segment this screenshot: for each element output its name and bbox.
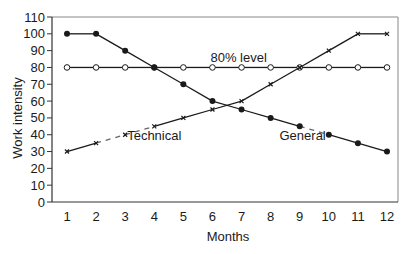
x-tick-label: 5 [180, 209, 187, 224]
annotation-label: General [280, 128, 326, 143]
series-segment [125, 51, 154, 68]
series-segment [242, 110, 271, 118]
y-tick-label: 100 [23, 26, 45, 41]
x-axis: 123456789101112 [52, 202, 398, 224]
series-segment [96, 135, 125, 143]
x-tick-label: 9 [296, 209, 303, 224]
y-tick-label: 50 [31, 110, 45, 125]
series-segment [154, 67, 183, 84]
x-tick-label: 12 [380, 209, 394, 224]
series-group [64, 31, 390, 155]
series-segment [154, 118, 183, 126]
open-circle-marker [93, 65, 99, 71]
filled-circle-marker [93, 31, 99, 37]
y-tick-label: 10 [31, 178, 45, 193]
x-tick-label: 1 [63, 209, 70, 224]
x-tick-label: 10 [322, 209, 336, 224]
line-chart: 0102030405060708090100110 12345678910111… [0, 0, 413, 254]
series-segment [242, 84, 271, 101]
y-tick-label: 110 [24, 10, 45, 25]
y-tick-label: 70 [31, 77, 45, 92]
x-marker [327, 49, 331, 53]
series-segment [329, 34, 358, 51]
y-tick-label: 60 [31, 94, 45, 109]
x-tick-label: 4 [151, 209, 158, 224]
open-circle-marker [64, 65, 70, 71]
series-segment [329, 135, 358, 143]
y-tick-label: 20 [31, 161, 45, 176]
open-circle-marker [210, 65, 216, 71]
filled-circle-marker [355, 140, 361, 146]
series-segment [271, 118, 300, 126]
annotation-label: Technical [127, 128, 181, 143]
series-general [64, 31, 390, 155]
filled-circle-marker [151, 64, 157, 70]
filled-circle-marker [326, 132, 332, 138]
series-80-level [64, 65, 390, 71]
series-segment [67, 143, 96, 151]
y-axis-label: Work intensity [10, 77, 25, 159]
y-tick-label: 40 [31, 127, 45, 142]
x-tick-label: 11 [351, 209, 365, 224]
x-tick-label: 8 [267, 209, 274, 224]
filled-circle-marker [64, 31, 70, 37]
annotation-label: 80% level [210, 50, 266, 65]
series-segment [183, 110, 212, 118]
series-segment [183, 84, 212, 101]
open-circle-marker [239, 65, 245, 71]
y-tick-label: 90 [31, 43, 45, 58]
x-tick-label: 3 [122, 209, 129, 224]
open-circle-marker [384, 65, 390, 71]
filled-circle-marker [209, 98, 215, 104]
filled-circle-marker [239, 107, 245, 113]
y-tick-label: 0 [38, 195, 45, 210]
series-segment [271, 67, 300, 84]
x-marker [269, 82, 273, 86]
x-tick-label: 2 [92, 209, 99, 224]
filled-circle-marker [268, 115, 274, 121]
open-circle-marker [326, 65, 332, 71]
open-circle-marker [268, 65, 274, 71]
filled-circle-marker [384, 149, 390, 155]
filled-circle-marker [180, 81, 186, 87]
open-circle-marker [122, 65, 128, 71]
x-tick-label: 7 [238, 209, 245, 224]
x-axis-label: Months [207, 229, 250, 244]
filled-circle-marker [122, 48, 128, 54]
open-circle-marker [355, 65, 361, 71]
y-tick-label: 30 [31, 144, 45, 159]
plot-frame [52, 17, 398, 202]
y-axis: 0102030405060708090100110 [23, 10, 52, 210]
series-segment [96, 34, 125, 51]
x-tick-label: 6 [209, 209, 216, 224]
open-circle-marker [181, 65, 187, 71]
annotations: 80% levelTechnicalGeneral [127, 50, 326, 142]
series-segment [300, 51, 329, 68]
y-tick-label: 80 [31, 60, 45, 75]
series-segment [358, 143, 387, 151]
